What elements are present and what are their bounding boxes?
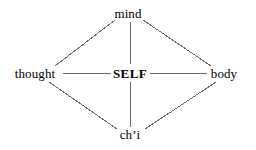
node-self: SELF — [111, 67, 149, 80]
edge-body-chi — [145, 82, 216, 129]
node-thought: thought — [13, 67, 57, 80]
node-body: body — [209, 67, 239, 80]
edge-mind-body — [143, 20, 211, 66]
concept-diagram: mindthoughtSELFbodych’i — [0, 0, 256, 150]
node-chi: ch’i — [118, 128, 143, 141]
edge-mind-thought — [55, 20, 115, 66]
node-mind: mind — [112, 7, 143, 20]
edge-thought-chi — [49, 82, 117, 129]
